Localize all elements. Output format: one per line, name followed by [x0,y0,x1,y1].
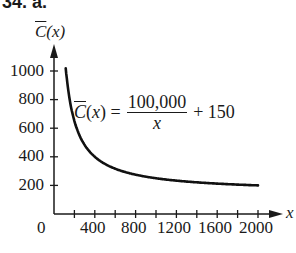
formula-denominator: x [153,113,161,133]
y-axis-arrow-icon [50,44,58,58]
y-tick-label: 800 [0,89,44,109]
formula-lhs: C(x) = [74,102,121,123]
x-tick-label: 1600 [198,218,232,238]
y-tick-label: 400 [0,146,44,166]
formula-fraction: 100,000 x [127,92,188,133]
formula-rhs: + 150 [193,102,235,123]
x-tick-label: 400 [80,218,106,238]
y-tick-label: 600 [0,118,44,138]
x-tick-label: 0 [37,218,46,238]
formula-numerator: 100,000 [127,92,188,113]
function-annotation: C(x) = 100,000 x + 150 [74,92,235,133]
x-axis-title: x [286,203,294,223]
y-tick-label: 1000 [0,61,44,81]
y-tick-label: 200 [0,175,44,195]
y-axis-title: C(x) [35,22,65,42]
x-tick-label: 800 [121,218,147,238]
x-axis-arrow-icon [269,210,283,218]
x-tick-label: 1200 [157,218,191,238]
x-tick-label: 2000 [239,218,273,238]
